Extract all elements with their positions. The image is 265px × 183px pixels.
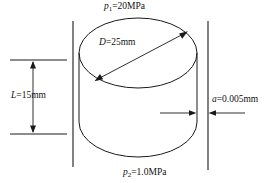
diameter-label: D=25mm: [99, 38, 136, 48]
diameter-value: 25mm: [111, 37, 135, 47]
top-pressure-value: 20MPa: [118, 1, 145, 11]
figure-container: p1=20MPa p2=1.0MPa D=25mm L=15mm a=0.005…: [0, 0, 265, 183]
cylinder-top-ellipse: [79, 18, 197, 88]
gap-right-arrowhead: [209, 110, 217, 116]
bottom-pressure-value: 1.0MPa: [137, 167, 167, 177]
cylinder-body-outline: [79, 53, 197, 157]
length-label: L=15mm: [11, 91, 46, 101]
length-arrowhead-down: [30, 126, 36, 134]
length-value: 15mm: [22, 90, 46, 100]
bottom-pressure-label: p2=1.0MPa: [123, 168, 166, 179]
top-pressure-label: p1=20MPa: [104, 2, 145, 13]
diameter-symbol: D: [99, 37, 106, 47]
diameter-arrowhead-upper-right: [179, 31, 188, 39]
gap-label: a=0.005mm: [212, 95, 258, 105]
gap-value: 0.005mm: [222, 94, 258, 104]
gap-left-arrowhead: [189, 110, 197, 116]
length-arrowhead-up: [30, 61, 36, 69]
